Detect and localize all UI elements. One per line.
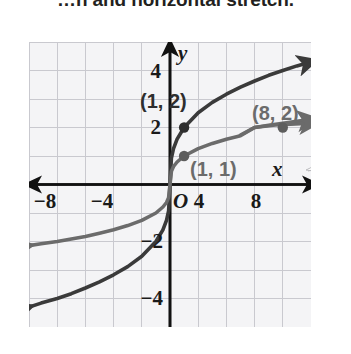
origin-label: O — [173, 189, 188, 213]
x-tick-label-4: 4 — [194, 189, 205, 213]
point-label-8-2: (8, 2) — [252, 102, 299, 124]
x-axis-label: x — [271, 157, 283, 181]
x-tick-label-8: 8 — [251, 189, 262, 213]
caption-text: …n and horizontal stretch. — [0, 0, 351, 13]
y-tick-label-4: 4 — [151, 59, 162, 83]
point-marker-1-2 — [179, 122, 189, 132]
y-tick-label-2: 2 — [151, 115, 162, 139]
figure-root: …n and horizontal stretch. — [0, 0, 351, 354]
point-label-1-1: (1, 1) — [190, 158, 237, 180]
y-tick-label--4: −4 — [141, 286, 164, 310]
x-tick-label--4: −4 — [91, 189, 114, 213]
point-label-1-2: (1, 2) — [140, 90, 187, 112]
point-marker-1-1 — [179, 151, 189, 161]
graph-figure: −8 −4 4 8 4 2 −2 −4 x y O (1, 2) (1, 1) … — [0, 28, 351, 354]
x-tick-label--8: −8 — [34, 189, 56, 213]
y-tick-label--2: −2 — [141, 229, 163, 253]
